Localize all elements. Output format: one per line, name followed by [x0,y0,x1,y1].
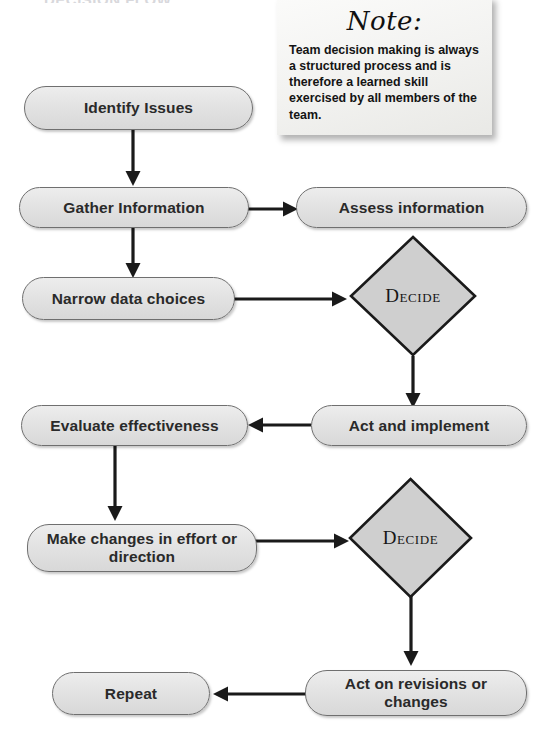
diamond-shape [348,234,478,358]
node-label: Act on revisions or changes [306,675,526,711]
node-decide-first[interactable]: Decide [348,234,478,358]
node-repeat[interactable]: Repeat [52,672,210,715]
connector-decide1-to-act [400,356,426,412]
connector-identify-to-gather [120,128,146,190]
node-narrow-data-choices[interactable]: Narrow data choices [22,277,235,320]
node-label: Act and implement [341,417,497,435]
connector-act-to-evaluate [245,412,315,438]
node-assess-information[interactable]: Assess information [296,187,527,228]
note-body: Team decision making is always a structu… [289,42,480,123]
page-title: DECISION FLOW [44,0,224,3]
connector-makechange-to-decide2 [256,528,354,554]
node-act-and-implement[interactable]: Act and implement [311,405,527,446]
node-label: Assess information [331,199,493,217]
node-evaluate-effectiveness[interactable]: Evaluate effectiveness [21,405,248,446]
connector-gather-to-assess [248,196,302,222]
note-card: Note: Team decision making is always a s… [277,0,492,135]
node-identify-issues[interactable]: Identify Issues [24,86,253,130]
node-act-on-revisions[interactable]: Act on revisions or changes [305,670,527,716]
node-label: Make changes in effort or direction [28,530,256,566]
diamond-shape [347,476,474,600]
connector-narrow-to-decide1 [234,286,352,312]
connector-actrev-to-repeat [208,681,312,707]
connector-gather-to-narrow [120,226,146,282]
node-label: Narrow data choices [44,290,214,308]
node-label: Gather Information [55,199,212,217]
node-decide-second[interactable]: Decide [347,476,474,600]
node-gather-information[interactable]: Gather Information [19,187,249,228]
node-label: Repeat [97,685,165,703]
note-heading: Note: [289,6,480,36]
node-make-changes[interactable]: Make changes in effort or direction [27,524,257,572]
connector-evaluate-to-makechange [102,443,128,525]
node-label: Identify Issues [76,99,201,117]
connector-decide2-to-actrev [398,596,424,670]
node-label: Evaluate effectiveness [42,417,226,435]
flowchart-canvas: DECISION FLOW Note: Team decision making… [0,0,537,736]
